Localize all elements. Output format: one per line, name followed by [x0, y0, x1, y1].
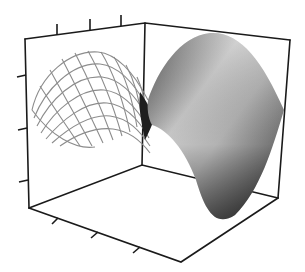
surface-plot-3d — [0, 0, 305, 272]
wireframe-surface — [32, 51, 150, 153]
top-edge-ticks — [57, 15, 121, 35]
bottom-edge-ticks — [52, 218, 140, 253]
shaded-surface — [148, 33, 284, 219]
